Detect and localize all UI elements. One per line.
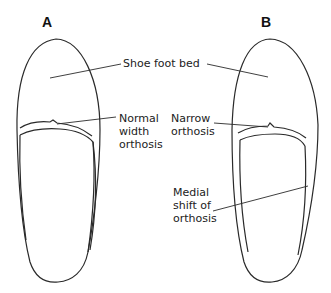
callout-narrow-line2: orthosis (171, 125, 215, 138)
callout-normal-line2: width (119, 125, 149, 138)
orthosis-inner-edge-b (240, 134, 305, 146)
callout-medial-shift: Medial shift of orthosis (173, 186, 217, 225)
leader-narrow-orthosis (214, 123, 268, 127)
panel-label-b: B (261, 14, 271, 30)
callout-normal-width-orthosis: Normal width orthosis (119, 112, 163, 151)
leader-shoe-foot-bed-b (207, 64, 268, 77)
callout-normal-line1: Normal (119, 112, 159, 125)
leader-shoe-foot-bed-a (50, 64, 121, 78)
callout-medial-line2: shift of (173, 199, 212, 212)
panel-b (232, 39, 318, 282)
shoe-foot-bed-outline-a (17, 39, 100, 282)
leader-normal-width-orthosis (57, 117, 116, 124)
orthosis-inner-edge-a (20, 129, 94, 252)
callout-shoe-foot-bed: Shoe foot bed (123, 57, 200, 70)
callout-narrow-line1: Narrow (171, 112, 210, 125)
panel-a (17, 39, 100, 282)
orthosis-diagram: A B Shoe foot bed Normal width orthosis … (0, 0, 331, 293)
callout-normal-line3: orthosis (119, 138, 163, 151)
callout-medial-line1: Medial (173, 186, 209, 199)
callout-narrow-orthosis: Narrow orthosis (171, 112, 215, 138)
callout-medial-line3: orthosis (173, 212, 217, 225)
orthosis-left-b (240, 140, 248, 252)
panel-label-a: A (42, 14, 52, 30)
leader-medial-shift (213, 186, 308, 211)
